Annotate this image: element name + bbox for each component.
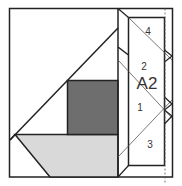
quilt-block-diagram: 4 2 A2 1 3 bbox=[0, 0, 182, 186]
piece-label-2: 2 bbox=[141, 61, 147, 72]
piece-label-4: 4 bbox=[145, 26, 151, 37]
piece-label-3: 3 bbox=[147, 139, 153, 150]
piece-label-1: 1 bbox=[137, 102, 143, 113]
section-label: A2 bbox=[137, 74, 158, 93]
dark-square-piece bbox=[68, 81, 119, 135]
